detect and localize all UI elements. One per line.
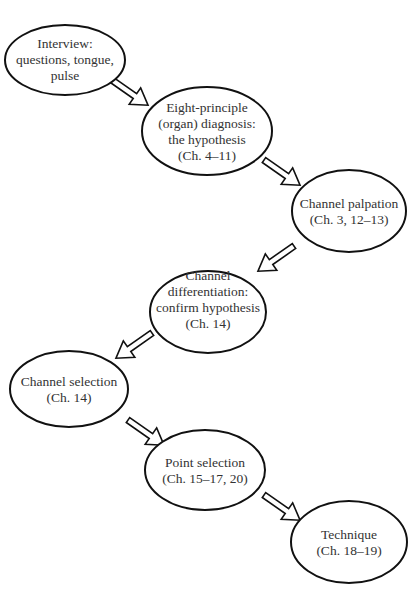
node-eight-principle-line-2: (organ) diagnosis: [158, 116, 256, 131]
arrow-eight-principle-to-channel-palpation [258, 152, 306, 194]
node-technique: Technique (Ch. 18–19) [291, 501, 407, 583]
node-channel-differentiation-line-1: Channel [186, 268, 231, 283]
node-interview-line-1: Interview: [37, 36, 92, 51]
node-channel-palpation-line-2: (Ch. 3, 12–13) [310, 212, 389, 227]
node-channel-differentiation: Channel differentiation: confirm hypothe… [150, 268, 266, 353]
node-interview-line-2: questions, tongue, [16, 52, 114, 67]
node-channel-palpation-line-1: Channel palpation [300, 196, 399, 211]
node-channel-palpation: Channel palpation (Ch. 3, 12–13) [292, 170, 406, 252]
node-point-selection: Point selection (Ch. 15–17, 20) [145, 430, 265, 510]
node-eight-principle-line-3: the hypothesis [168, 132, 246, 147]
flow-diagram: Interview: questions, tongue, pulse Eigh… [0, 0, 411, 589]
node-eight-principle-line-4: (Ch. 4–11) [178, 148, 236, 163]
node-technique-line-1: Technique [321, 527, 377, 542]
arrow-channel-palpation-to-channel-differentiation [252, 238, 300, 280]
node-interview: Interview: questions, tongue, pulse [5, 25, 125, 95]
node-channel-differentiation-line-4: (Ch. 14) [186, 316, 231, 331]
arrow-channel-differentiation-to-channel-selection [110, 325, 158, 367]
node-point-selection-line-2: (Ch. 15–17, 20) [162, 471, 248, 486]
node-interview-line-3: pulse [51, 68, 80, 83]
node-eight-principle: Eight-principle (organ) diagnosis: the h… [142, 87, 272, 175]
node-channel-differentiation-line-2: differentiation: [168, 284, 249, 299]
node-point-selection-line-1: Point selection [165, 455, 245, 470]
node-channel-selection-line-1: Channel selection [21, 374, 118, 389]
node-channel-differentiation-line-3: confirm hypothesis [156, 300, 260, 315]
node-channel-selection: Channel selection (Ch. 14) [10, 351, 128, 427]
node-eight-principle-line-1: Eight-principle [166, 100, 248, 115]
node-technique-line-2: (Ch. 18–19) [316, 543, 381, 558]
node-channel-selection-line-2: (Ch. 14) [47, 390, 92, 405]
